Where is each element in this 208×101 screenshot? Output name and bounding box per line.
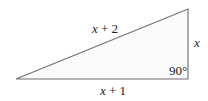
hypotenuse-label: x + 2 — [91, 21, 118, 36]
vertical-side-label: x — [193, 35, 200, 50]
right-triangle — [16, 9, 188, 79]
base-label: x + 1 — [99, 83, 126, 98]
diagram-canvas: x + 2 x 90° x + 1 — [0, 0, 208, 101]
triangle-figure: x + 2 x 90° x + 1 — [0, 0, 208, 101]
right-angle-label: 90° — [169, 63, 187, 78]
